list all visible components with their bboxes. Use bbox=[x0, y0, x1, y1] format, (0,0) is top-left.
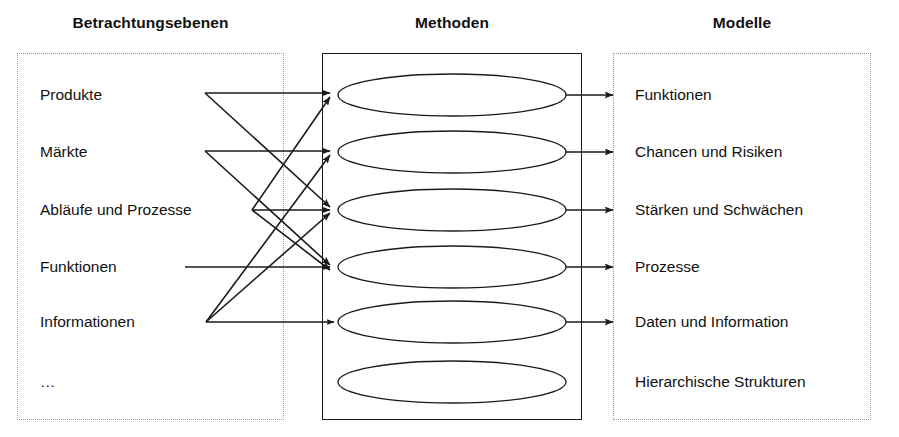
right-item-funktionen[interactable]: Funktionen bbox=[635, 87, 712, 103]
left-item-maerkte[interactable]: Märkte bbox=[40, 144, 87, 160]
right-item-hierarchische-strukturen: Hierarchische Strukturen bbox=[635, 374, 806, 390]
column-title-methoden: Methoden bbox=[322, 14, 582, 32]
left-item-informationen[interactable]: Informationen bbox=[40, 314, 135, 330]
diagram-canvas: Betrachtungsebenen Methoden Modelle Prod… bbox=[0, 0, 899, 437]
left-item-ablaeufe-und-prozesse[interactable]: Abläufe und Prozesse bbox=[40, 202, 192, 218]
panel-betrachtungsebenen bbox=[17, 53, 284, 420]
panel-methoden bbox=[322, 53, 582, 420]
right-item-staerken-und-schwaechen[interactable]: Stärken und Schwächen bbox=[635, 202, 803, 218]
left-item-ellipsis: … bbox=[40, 374, 58, 390]
left-item-funktionen[interactable]: Funktionen bbox=[40, 259, 117, 275]
right-item-daten-und-information[interactable]: Daten und Information bbox=[635, 314, 788, 330]
column-title-betrachtungsebenen: Betrachtungsebenen bbox=[17, 14, 284, 32]
right-item-prozesse[interactable]: Prozesse bbox=[635, 259, 700, 275]
right-item-chancen-und-risiken[interactable]: Chancen und Risiken bbox=[635, 144, 782, 160]
panel-modelle bbox=[613, 53, 871, 420]
left-item-produkte[interactable]: Produkte bbox=[40, 87, 102, 103]
column-title-modelle: Modelle bbox=[613, 14, 871, 32]
